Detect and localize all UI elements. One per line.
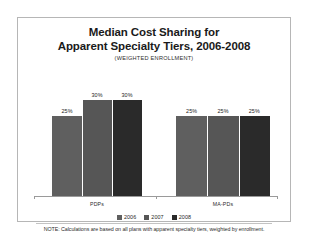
bar-slot-mapds-2007: 25%	[207, 61, 238, 196]
bar-value-label: 25%	[52, 108, 82, 114]
legend-label: 2006	[124, 214, 136, 220]
bar-mapds-2008	[239, 116, 270, 196]
bar-group-pdps-bars: 25% 30% 30%	[52, 61, 142, 196]
legend-swatch-icon	[144, 215, 149, 220]
bar-value-label: 25%	[239, 108, 270, 114]
axis-tick-left	[34, 196, 35, 199]
bar-group-mapds: 25% 25% 25%	[176, 61, 270, 196]
legend-swatch-icon	[172, 215, 177, 220]
chart-title-line-2: Apparent Specialty Tiers, 2006-2008	[18, 40, 290, 54]
bar-value-label: 25%	[207, 108, 238, 114]
bar-group-mapds-bars: 25% 25% 25%	[176, 61, 270, 196]
legend-item-2006: 2006	[117, 214, 136, 220]
bar-pdps-2007	[82, 100, 112, 196]
chart-note: NOTE: Calculations are based on all plan…	[36, 226, 272, 232]
bar-value-label: 30%	[112, 92, 142, 98]
legend-label: 2008	[179, 214, 191, 220]
legend-swatch-icon	[117, 215, 122, 220]
x-axis-category-labels: PDPs MA-PDs	[28, 201, 282, 211]
chart-title-line-1: Median Cost Sharing for	[18, 26, 290, 40]
chart-frame: Median Cost Sharing for Apparent Special…	[17, 17, 291, 222]
bar-group-pdps: 25% 30% 30%	[52, 61, 142, 196]
axis-tick-mid	[156, 196, 157, 199]
bar-mapds-2007	[207, 116, 238, 196]
bar-slot-pdps-2007: 30%	[82, 61, 112, 196]
bar-value-label: 30%	[82, 92, 112, 98]
plot-area: 25% 30% 30% 25%	[28, 62, 282, 197]
x-axis-label-pdps: PDPs	[52, 201, 142, 207]
bar-slot-pdps-2008: 30%	[112, 61, 142, 196]
legend-item-2007: 2007	[144, 214, 163, 220]
chart-figure: Median Cost Sharing for Apparent Special…	[0, 0, 309, 239]
bar-slot-mapds-2008: 25%	[239, 61, 270, 196]
legend-label: 2007	[151, 214, 163, 220]
bar-pdps-2008	[112, 100, 142, 196]
legend-item-2008: 2008	[172, 214, 191, 220]
bar-mapds-2006	[176, 116, 207, 196]
axis-tick-right	[277, 196, 278, 199]
bar-value-label: 25%	[176, 108, 207, 114]
bar-slot-pdps-2006: 25%	[52, 61, 82, 196]
x-axis-line	[34, 196, 278, 197]
x-axis-label-mapds: MA-PDs	[176, 201, 270, 207]
note-divider	[36, 223, 272, 224]
chart-legend: 2006 2007 2008	[18, 214, 290, 220]
bar-slot-mapds-2006: 25%	[176, 61, 207, 196]
bar-pdps-2006	[52, 116, 82, 196]
chart-title-block: Median Cost Sharing for Apparent Special…	[18, 26, 290, 61]
